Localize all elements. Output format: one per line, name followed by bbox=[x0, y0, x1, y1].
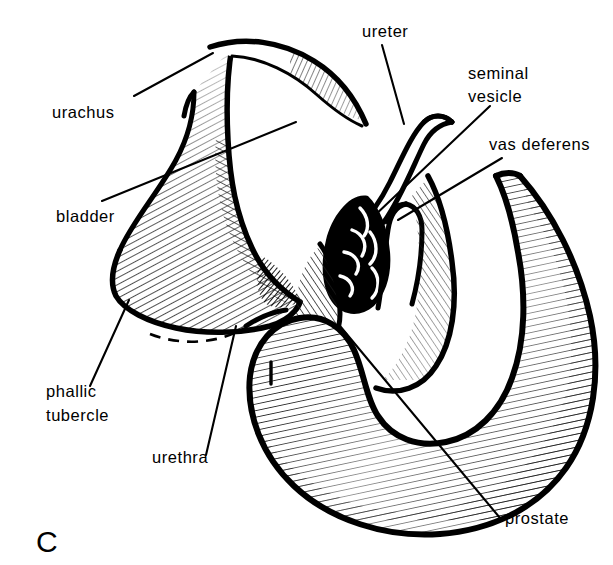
leader-urethra bbox=[206, 326, 236, 455]
structure-vas-deferens bbox=[376, 176, 454, 391]
label-vas-deferens: vas deferens bbox=[489, 135, 590, 153]
panel-letter: C bbox=[36, 525, 58, 558]
anatomy-illustration: urachus bladder ureter seminal vesicle v… bbox=[0, 0, 613, 565]
leader-ureter bbox=[382, 45, 404, 124]
label-phallic: phallic bbox=[46, 382, 97, 400]
structure-bladder bbox=[113, 47, 300, 332]
label-tubercle: tubercle bbox=[46, 406, 109, 424]
label-vesicle: vesicle bbox=[468, 87, 522, 105]
label-seminal: seminal bbox=[468, 64, 529, 82]
label-prostate: prostate bbox=[505, 509, 569, 527]
label-bladder: bladder bbox=[56, 207, 115, 225]
structure-urachus bbox=[210, 41, 366, 126]
label-urachus: urachus bbox=[52, 103, 115, 121]
leader-phallic-tubercle bbox=[90, 300, 129, 386]
label-ureter: ureter bbox=[362, 22, 408, 40]
label-urethra: urethra bbox=[152, 448, 208, 466]
anatomical-figure-panel-c: urachus bladder ureter seminal vesicle v… bbox=[0, 0, 613, 565]
